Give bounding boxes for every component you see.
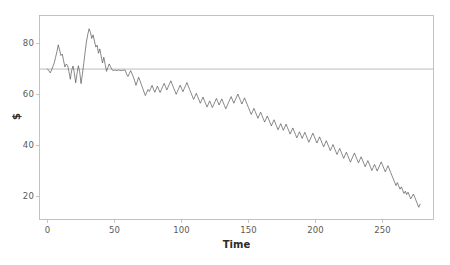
chart-figure: 20406080 050100150200250 $ Time <box>0 0 450 265</box>
y-tick-marks <box>36 44 40 197</box>
plot-box-frame <box>40 16 434 220</box>
x-tick-label: 100 <box>162 225 202 235</box>
x-tick-marks <box>48 220 383 224</box>
x-tick-label: 50 <box>95 225 135 235</box>
plot-border <box>40 16 434 220</box>
x-tick-label: 250 <box>363 225 403 235</box>
y-axis-label: $ <box>11 106 22 126</box>
x-axis-label: Time <box>12 239 450 250</box>
y-tick-label: 80 <box>12 38 34 48</box>
series-line-price <box>48 29 421 208</box>
y-tick-label: 60 <box>12 89 34 99</box>
x-tick-label: 200 <box>296 225 336 235</box>
x-tick-label: 150 <box>229 225 269 235</box>
x-tick-label: 0 <box>28 225 68 235</box>
y-tick-label: 20 <box>12 191 34 201</box>
y-tick-label: 40 <box>12 140 34 150</box>
